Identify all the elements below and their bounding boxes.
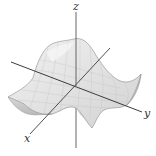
y-axis-label: y — [143, 107, 151, 120]
surface — [8, 39, 141, 128]
z-axis-label: z — [72, 0, 79, 13]
x-axis-label: x — [24, 132, 31, 145]
surface-plot: z y x — [0, 0, 156, 156]
